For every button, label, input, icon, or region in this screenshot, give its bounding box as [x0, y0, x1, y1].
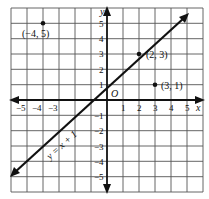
y-tick--4: −4	[94, 157, 104, 167]
x-tick-1: 1	[121, 103, 126, 113]
x-tick-4: 4	[169, 103, 174, 113]
y-tick-2: 2	[99, 65, 104, 75]
origin-label: O	[111, 88, 118, 99]
equation-label: y = x + 1	[43, 128, 79, 162]
x-axis-label: x	[195, 102, 201, 113]
point-neg4-5	[41, 21, 46, 26]
y-tick--2: −2	[94, 126, 104, 136]
x-tick--4: −4	[32, 103, 42, 113]
x-tick--5: −5	[16, 103, 26, 113]
x-tick-2: 2	[137, 103, 142, 113]
y-tick-4: 4	[99, 34, 104, 44]
point-label-2-3: (2, 3)	[146, 49, 168, 61]
x-tick--3: −3	[48, 103, 58, 113]
y-tick--1: −1	[94, 111, 104, 121]
point-label-neg4-5: (−4, 5)	[22, 28, 49, 40]
y-tick--3: −3	[94, 142, 104, 152]
y-tick-5: 5	[99, 19, 104, 29]
x-tick-3: 3	[153, 103, 158, 113]
y-tick--5: −5	[94, 172, 104, 182]
point-3-1	[153, 82, 158, 87]
y-tick-3: 3	[99, 49, 104, 59]
x-tick-5: 5	[185, 103, 190, 113]
y-axis-label: y	[99, 6, 105, 17]
y-tick-1: 1	[99, 80, 104, 90]
coordinate-plane: (−4, 5) (2, 3) (3, 1) y x O −5 −4 −3 1 2…	[0, 0, 209, 199]
point-label-3-1: (3, 1)	[161, 80, 183, 92]
point-2-3	[137, 52, 142, 57]
y-axis-down-arrow-icon	[103, 184, 111, 194]
